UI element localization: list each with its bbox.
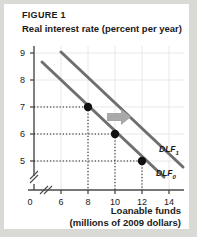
x-axis-title-line1: Loanable funds — [111, 205, 181, 216]
x-axis-title-line2: (millions of 2009 dollars) — [70, 217, 181, 228]
figure-card: FIGURE 1 Real interest rate (percent per… — [4, 4, 189, 229]
y-tick-label-7: 7 — [20, 102, 25, 112]
y-tick-label-6: 6 — [20, 129, 25, 139]
point-12-5 — [138, 157, 146, 165]
x-tick-label-6: 6 — [58, 197, 63, 207]
curve-label-dlf1: DLF1 — [159, 144, 180, 156]
y-tick-label-5: 5 — [20, 156, 25, 166]
curve-label-dlf0-text: DLF — [156, 168, 173, 178]
point-8-7 — [84, 103, 92, 111]
y-tick-label-8: 8 — [20, 75, 25, 85]
plot-area: 9 8 7 6 5 0 6 8 10 12 14 — [4, 4, 189, 229]
curve-label-dlf0: DLF0 — [156, 168, 177, 180]
x-tick-label-8: 8 — [85, 197, 90, 207]
curve-label-dlf1-sub: 1 — [176, 150, 180, 156]
curve-label-dlf0-sub: 0 — [173, 174, 177, 180]
y-tick-label-9: 9 — [20, 48, 25, 58]
curve-label-dlf1-text: DLF — [159, 144, 176, 154]
point-10-6 — [111, 130, 119, 138]
shift-arrow-icon — [107, 109, 131, 125]
origin-label: 0 — [27, 197, 32, 207]
